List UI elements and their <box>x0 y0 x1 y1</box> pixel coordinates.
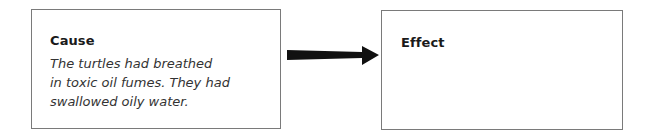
cause-text-line: in toxic oil fumes. They had <box>50 73 275 92</box>
right-arrow-icon <box>286 44 380 68</box>
cause-text-line: The turtles had breathed <box>50 54 275 73</box>
effect-heading: Effect <box>401 35 445 50</box>
cause-heading: Cause <box>50 33 95 48</box>
cause-box: Cause The turtles had breathed in toxic … <box>31 9 281 129</box>
effect-box: Effect <box>381 10 623 130</box>
cause-text: The turtles had breathed in toxic oil fu… <box>50 54 275 111</box>
cause-text-line: swallowed oily water. <box>50 92 275 111</box>
